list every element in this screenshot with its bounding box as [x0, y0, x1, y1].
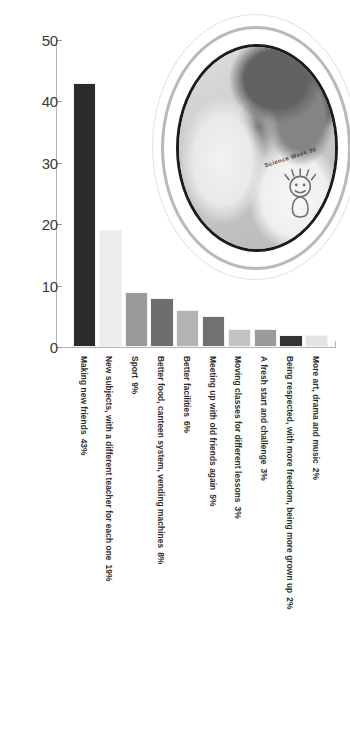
category-label: Being respected, with more freedom, bein…	[285, 356, 295, 610]
category-label: Meeting up with old friends again5%	[208, 356, 218, 506]
category-label: Better food, canteen system, vending mac…	[156, 356, 166, 564]
x-axis-line	[56, 347, 336, 348]
category-value-label: 19%	[104, 565, 114, 582]
category-label-text: Meeting up with old friends again	[208, 356, 218, 490]
bar	[150, 298, 173, 347]
category-value-label: 2%	[311, 468, 321, 480]
category-label-text: New subjects, with a different teacher f…	[104, 356, 114, 561]
category-value-label: 3%	[233, 507, 243, 519]
plot-area: 01020304050	[0, 0, 350, 360]
category-label: More art, drama and music2%	[311, 356, 321, 480]
category-label: Better facilities6%	[182, 356, 192, 433]
category-label-text: Better food, canteen system, vending mac…	[156, 356, 166, 548]
category-value-label: 9%	[130, 382, 140, 394]
bar	[305, 335, 328, 347]
bar	[254, 329, 277, 347]
bar	[228, 329, 251, 347]
category-value-label: 2%	[285, 597, 295, 609]
category-label: New subjects, with a different teacher f…	[104, 356, 114, 581]
category-label-text: A fresh start and challenge	[259, 356, 269, 465]
category-value-label: 6%	[182, 421, 192, 433]
category-label-text: Sport	[130, 356, 140, 378]
category-label-text: Moving classes for different lessons	[233, 356, 243, 503]
category-label-text: Making new friends	[79, 356, 89, 435]
category-labels: Making new friends43%New subjects, with …	[0, 352, 350, 734]
category-label: Sport9%	[130, 356, 140, 394]
category-value-label: 5%	[208, 494, 218, 506]
bar	[202, 316, 225, 347]
bar	[176, 310, 199, 347]
category-label-text: Being respected, with more freedom, bein…	[285, 356, 295, 593]
bar	[125, 292, 148, 347]
bar	[279, 335, 302, 347]
category-label-text: Better facilities	[182, 356, 192, 417]
bar	[99, 230, 122, 347]
category-label: Moving classes for different lessons3%	[233, 356, 243, 519]
category-value-label: 3%	[259, 469, 269, 481]
category-value-label: 8%	[156, 552, 166, 564]
chart-page: Science Week 96 01020304050 Making new f…	[0, 0, 350, 734]
bars-group	[0, 40, 350, 347]
category-label-text: More art, drama and music	[311, 356, 321, 464]
category-label: Making new friends43%	[79, 356, 89, 456]
bar	[73, 83, 96, 347]
category-label: A fresh start and challenge3%	[259, 356, 269, 481]
category-value-label: 43%	[79, 439, 89, 456]
